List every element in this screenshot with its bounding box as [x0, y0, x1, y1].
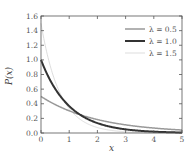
- x-tick-label: 1: [67, 135, 72, 144]
- legend: λ = 0.5λ = 1.0λ = 1.5: [125, 25, 177, 58]
- y-tick-label: 0.8: [26, 70, 38, 79]
- y-tick-label: 1.2: [26, 41, 38, 50]
- y-tick-label: 1.6: [26, 12, 38, 21]
- legend-label: λ = 0.5: [149, 25, 177, 34]
- x-tick-label: 0: [39, 135, 44, 144]
- legend-label: λ = 1.5: [149, 49, 177, 58]
- x-axis-ticks: 012345: [39, 16, 185, 144]
- y-tick-label: 1.0: [26, 55, 38, 64]
- chart: 012345 0.00.20.40.60.81.01.21.41.6 x P(x…: [0, 0, 192, 160]
- x-tick-label: 2: [95, 135, 100, 144]
- series-line-0: [41, 96, 182, 130]
- y-tick-label: 0.4: [26, 99, 38, 108]
- x-tick-label: 5: [180, 135, 185, 144]
- x-axis-label: x: [109, 143, 114, 153]
- x-tick-label: 4: [151, 135, 156, 144]
- plot-frame: [41, 16, 182, 133]
- legend-label: λ = 1.0: [149, 37, 177, 46]
- y-tick-label: 1.4: [26, 26, 38, 35]
- x-tick-label: 3: [123, 135, 128, 144]
- y-tick-label: 0.0: [26, 129, 38, 138]
- y-tick-label: 0.6: [26, 85, 38, 94]
- y-axis-label: P(x): [4, 66, 14, 86]
- series-line-1: [41, 60, 182, 133]
- y-tick-label: 0.2: [26, 114, 38, 123]
